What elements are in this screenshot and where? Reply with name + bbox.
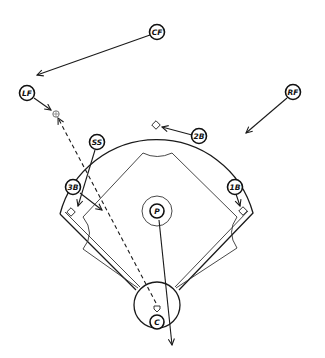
position-rf: RF <box>286 85 301 100</box>
1b-arrow <box>236 194 240 206</box>
ball-target-marker <box>53 111 59 117</box>
infield-diamond <box>83 153 237 288</box>
second-base-icon <box>152 121 160 129</box>
2b-arrow <box>162 127 192 135</box>
infield-grass-edge <box>83 153 237 288</box>
position-label: C <box>154 318 160 327</box>
position-cf: CF <box>150 25 165 40</box>
position-2b: 2B <box>192 129 207 144</box>
baseball-field-diagram: CF LF RF SS 2B 3B 1B P <box>0 0 325 358</box>
position-c: C <box>150 315 164 329</box>
position-label: LF <box>22 89 33 98</box>
first-base-icon <box>239 207 247 215</box>
position-1b: 1B <box>228 180 243 195</box>
position-lf: LF <box>20 86 35 101</box>
position-label: SS <box>92 138 103 147</box>
position-label: CF <box>152 28 164 37</box>
position-3b: 3B <box>66 180 81 195</box>
left-foul-line-inner <box>65 212 140 287</box>
position-label: RF <box>288 88 300 97</box>
position-label: 2B <box>194 132 205 141</box>
cf-arrow <box>37 35 150 75</box>
position-label: 3B <box>68 183 79 192</box>
position-label: 1B <box>230 183 241 192</box>
position-p: P <box>150 204 164 218</box>
position-label: P <box>154 207 160 216</box>
position-markers: CF LF RF SS 2B 3B 1B P <box>20 25 301 330</box>
rf-arrow <box>246 98 287 133</box>
position-ss: SS <box>90 135 105 150</box>
lf-arrow <box>34 98 51 110</box>
right-foul-line-inner <box>175 211 248 287</box>
home-plate-icon <box>154 306 160 312</box>
